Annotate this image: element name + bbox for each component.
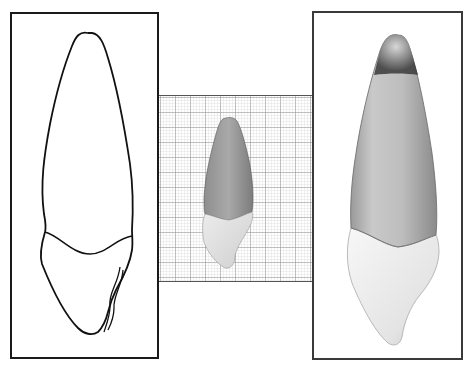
tooth-outline [41, 33, 133, 335]
line-drawing-panel [10, 12, 159, 359]
graph-paper-panel [159, 95, 312, 282]
graph-paper-photo [159, 96, 312, 282]
tooth-apex-shaded [374, 35, 418, 75]
tooth-shaded-photo [314, 13, 465, 362]
cej-line [45, 232, 132, 254]
shaded-photo-panel [312, 11, 463, 360]
tooth-line-drawing [12, 14, 161, 361]
